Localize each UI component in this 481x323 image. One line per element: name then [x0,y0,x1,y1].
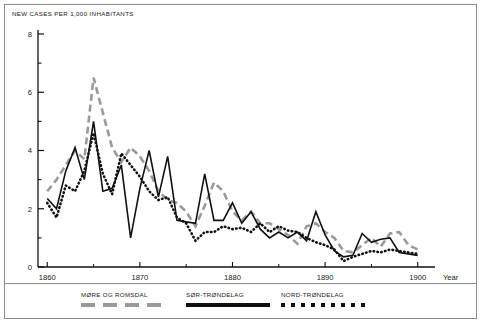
x-tick-label: 1900 [409,273,426,282]
legend: MØRE OG ROMSDAL SØR-TRØNDELAG NORD-TRØND… [5,286,476,320]
legend-item-nord-trondelag[interactable]: NORD-TRØNDELAG [281,291,365,307]
legend-item-more-og-romsdal[interactable]: MØRE OG ROMSDAL [81,291,165,307]
x-tick-label: 1890 [317,273,334,282]
chart-figure: NEW CASES PER 1,000 INHABITANTS 02468186… [0,0,481,323]
x-tick-label: 1870 [131,273,148,282]
y-tick-label: 2 [28,205,32,214]
legend-swatch-dotted-icon [281,303,365,307]
series-line-m-re-og-romsdal [47,78,417,253]
x-axis-title: Year [443,273,459,282]
legend-divider [5,283,476,284]
legend-label-sor-trondelag: SØR-TRØNDELAG [186,291,270,298]
legend-swatch-dashed-icon [81,303,165,307]
plot-area: 0246818601870188018901900Year [0,0,481,283]
y-tick-label: 8 [28,30,32,39]
legend-swatch-solid-icon [186,303,270,307]
y-tick-label: 0 [28,263,32,272]
legend-label-more-og-romsdal: MØRE OG ROMSDAL [81,291,165,298]
series-line-nord-tr-ndelag [47,133,417,261]
legend-label-nord-trondelag: NORD-TRØNDELAG [281,291,365,298]
x-tick-label: 1860 [39,273,56,282]
series-line-s-r-tr-ndelag [47,121,417,256]
legend-item-sor-trondelag[interactable]: SØR-TRØNDELAG [186,291,270,307]
y-tick-label: 6 [28,88,32,97]
y-tick-label: 4 [28,146,32,155]
x-tick-label: 1880 [224,273,241,282]
data-series [47,78,417,261]
